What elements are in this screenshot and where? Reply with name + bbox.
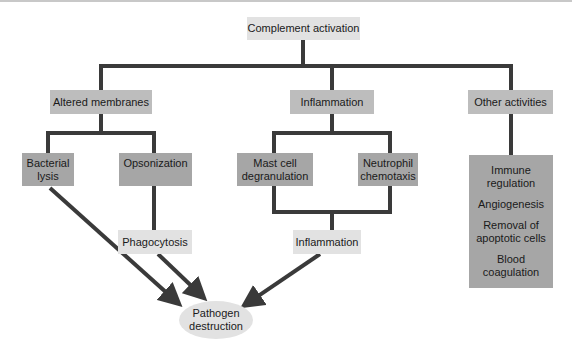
node-label: Complement activation [248, 22, 360, 35]
list-item-line1: Angiogenesis [478, 198, 544, 211]
node-label-line2: chemotaxis [360, 170, 416, 183]
list-item-line1: Blood [483, 253, 539, 266]
node-label: Inflammation [301, 96, 364, 109]
list-item: Blood coagulation [483, 253, 539, 279]
list-item-line2: apoptotic cells [476, 232, 546, 245]
altered-membranes-node: Altered membranes [50, 90, 152, 114]
list-item-line1: Immune [487, 164, 535, 177]
node-label-line1: Bacterial [27, 157, 70, 170]
node-label-line1: Mast cell [253, 157, 296, 170]
node-label-line2: destruction [189, 320, 243, 333]
node-label-line2: degranulation [242, 170, 309, 183]
neutrophil-chemotaxis-node: Neutrophil chemotaxis [358, 153, 418, 186]
node-label-line1: Neutrophil [363, 157, 413, 170]
other-activities-list: Immune regulation Angiogenesis Removal o… [469, 155, 553, 288]
inflammation-node: Inflammation [290, 90, 374, 114]
list-item-line2: regulation [487, 177, 535, 190]
inflammation-result-node: Inflammation [293, 230, 361, 254]
list-item: Removal of apoptotic cells [476, 219, 546, 245]
other-activities-node: Other activities [468, 90, 553, 114]
phagocytosis-node: Phagocytosis [118, 230, 192, 254]
node-label-line2: lysis [37, 170, 58, 183]
list-item-line1: Removal of [476, 219, 546, 232]
node-label: Phagocytosis [122, 236, 187, 249]
node-label: Opsonization [123, 157, 187, 170]
opsonization-node: Opsonization [119, 153, 192, 186]
list-item: Immune regulation [487, 164, 535, 190]
node-label: Inflammation [296, 236, 359, 249]
bacterial-lysis-node: Bacterial lysis [22, 153, 74, 186]
node-label: Other activities [474, 96, 547, 109]
list-item: Angiogenesis [478, 198, 544, 211]
node-label: Altered membranes [53, 96, 149, 109]
mast-cell-degranulation-node: Mast cell degranulation [237, 153, 313, 186]
complement-activation-node: Complement activation [247, 17, 360, 40]
list-item-line2: coagulation [483, 266, 539, 279]
pathogen-destruction-node: Pathogen destruction [179, 301, 253, 339]
node-label-line1: Pathogen [192, 307, 239, 320]
